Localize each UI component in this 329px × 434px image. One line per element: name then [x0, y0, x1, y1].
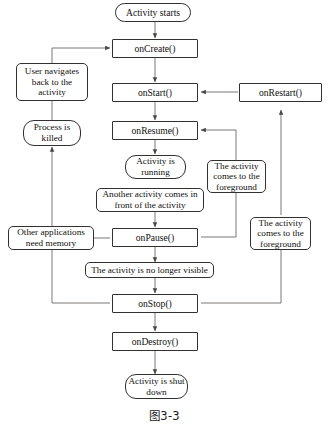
- link-onstop-right-stub: [201, 250, 281, 303]
- node-activity-shut-down[interactable]: Activity is shut down: [125, 374, 188, 399]
- node-on-pause[interactable]: onPause(): [112, 228, 198, 247]
- node-on-resume[interactable]: onResume(): [112, 121, 198, 140]
- node-user-navigates-back-label: User navigates back to the activity: [17, 66, 87, 98]
- node-activity-starts-label: Activity starts: [126, 7, 180, 18]
- node-other-apps-memory[interactable]: Other applications need memory: [8, 226, 94, 250]
- figure-caption: 图3-3: [0, 407, 329, 423]
- node-on-stop-label: onStop(): [138, 298, 172, 309]
- node-activity-shut-down-label: Activity is shut down: [126, 376, 187, 397]
- node-on-start[interactable]: onStart(): [112, 83, 198, 102]
- node-no-longer-visible[interactable]: The activity is no longer visible: [85, 262, 214, 278]
- node-on-create-label: onCreate(): [134, 43, 175, 54]
- link-onpause-right-stub: [201, 192, 236, 237]
- edge-usernavigates-to-oncreate: [52, 48, 110, 64]
- node-activity-starts[interactable]: Activity starts: [115, 3, 191, 22]
- node-on-restart-label: onRestart(): [259, 87, 302, 98]
- node-on-destroy[interactable]: onDestroy(): [112, 332, 198, 351]
- node-on-create[interactable]: onCreate(): [112, 39, 198, 58]
- node-on-resume-label: onResume(): [132, 125, 179, 136]
- node-on-start-label: onStart(): [138, 87, 172, 98]
- node-activity-running-label: Activity is running: [126, 156, 185, 177]
- node-on-restart[interactable]: onRestart(): [239, 83, 322, 102]
- node-no-longer-visible-label: The activity is no longer visible: [91, 265, 208, 276]
- node-foreground-bottom-label: The activity comes to the foreground: [251, 218, 310, 250]
- node-activity-running[interactable]: Activity is running: [125, 155, 186, 179]
- node-foreground-top-label: The activity comes to the foreground: [208, 161, 265, 193]
- node-user-navigates-back[interactable]: User navigates back to the activity: [16, 63, 88, 101]
- node-foreground-top[interactable]: The activity comes to the foreground: [207, 160, 266, 193]
- node-other-apps-memory-label: Other applications need memory: [9, 227, 93, 248]
- node-another-activity[interactable]: Another activity comes in front of the a…: [96, 188, 204, 212]
- node-process-killed[interactable]: Process is killed: [23, 120, 81, 146]
- node-on-stop[interactable]: onStop(): [112, 294, 198, 313]
- node-on-destroy-label: onDestroy(): [132, 336, 178, 347]
- edge-onpause-to-onresume: [201, 130, 236, 164]
- node-process-killed-label: Process is killed: [24, 122, 80, 143]
- node-on-pause-label: onPause(): [136, 232, 174, 243]
- node-foreground-bottom[interactable]: The activity comes to the foreground: [250, 217, 311, 250]
- node-another-activity-label: Another activity comes in front of the a…: [97, 189, 203, 210]
